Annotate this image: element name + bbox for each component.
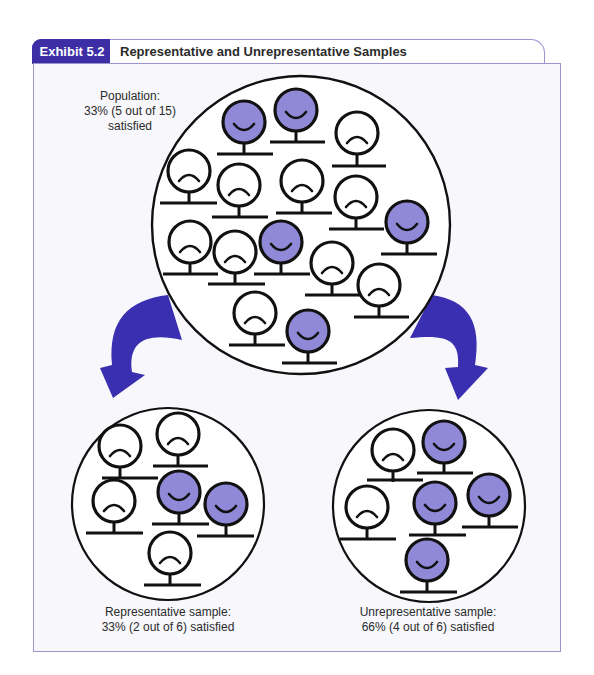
representative-sample-caption: Representative sample: 33% (2 out of 6) … <box>68 605 268 635</box>
unrepresentative-caption-line: 66% (4 out of 6) satisfied <box>328 620 528 635</box>
population-caption: Population: 33% (5 out of 15) satisfied <box>60 89 200 134</box>
population-caption-line: Population: <box>60 89 200 104</box>
representative-caption-line: Representative sample: <box>68 605 268 620</box>
representative-sample-group <box>72 408 264 600</box>
population-caption-line: satisfied <box>60 119 200 134</box>
unrepresentative-sample-caption: Unrepresentative sample: 66% (4 out of 6… <box>328 605 528 635</box>
representative-caption-line: 33% (2 out of 6) satisfied <box>68 620 268 635</box>
population-caption-line: 33% (5 out of 15) <box>60 104 200 119</box>
unrepresentative-sample-group <box>333 410 525 602</box>
arrow-to-representative-icon <box>100 295 182 398</box>
unrepresentative-caption-line: Unrepresentative sample: <box>328 605 528 620</box>
